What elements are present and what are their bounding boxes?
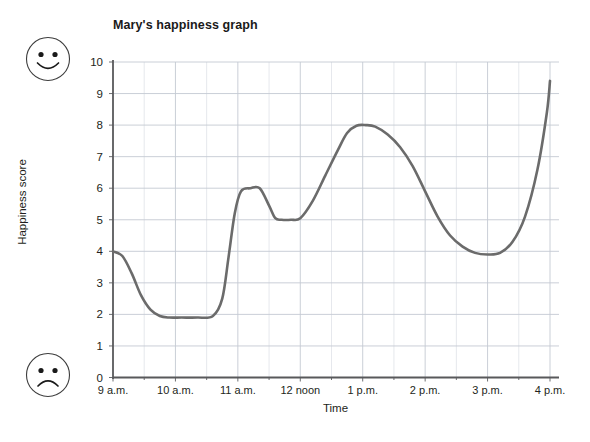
x-axis-title: Time: [113, 402, 558, 414]
chart-page: Mary's happiness graph 012345678910 9 a.…: [0, 0, 590, 442]
y-tick-label: 5: [79, 214, 103, 226]
y-tick-label: 6: [79, 182, 103, 194]
x-tick-label: 4 p.m.: [510, 384, 590, 396]
y-tick-label: 7: [79, 151, 103, 163]
y-axis-title: Happiness score: [16, 142, 28, 262]
y-tick-label: 4: [79, 245, 103, 257]
y-tick-label: 3: [79, 277, 103, 289]
y-tick-label: 9: [79, 88, 103, 100]
y-tick-label: 0: [79, 372, 103, 384]
y-tick-label: 8: [79, 119, 103, 131]
y-tick-label: 1: [79, 340, 103, 352]
y-tick-label: 10: [79, 56, 103, 68]
y-tick-label: 2: [79, 308, 103, 320]
grid-major: [113, 62, 559, 378]
